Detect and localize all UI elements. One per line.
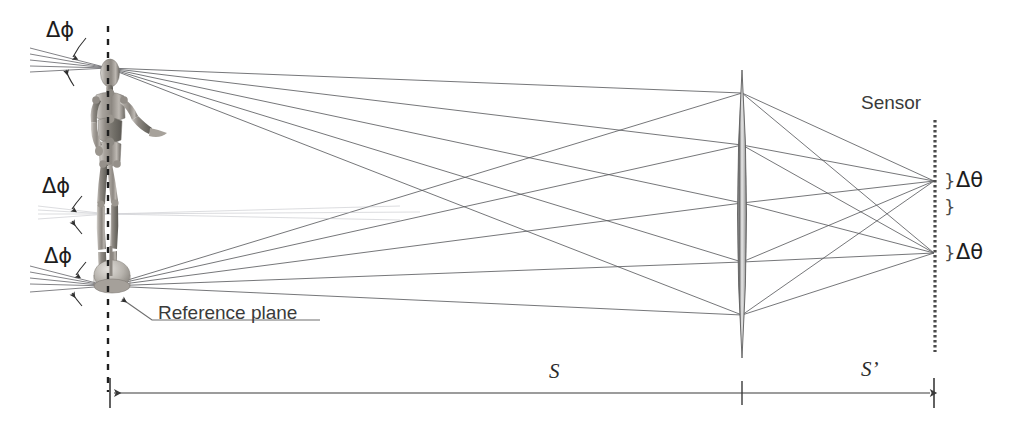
object-fan-top-left (30, 48, 108, 72)
delta-phi-top-label: Δϕ (46, 20, 74, 41)
delta-phi-bottom-arrows (72, 262, 86, 306)
delta-phi-middle-arrows (72, 196, 82, 234)
object-distance-label: S (549, 361, 560, 382)
dimension-line-group (110, 378, 934, 408)
delta-theta-top-label: Δθ (956, 170, 983, 191)
image-distance-label: S’ (861, 359, 879, 380)
delta-phi-middle-label: Δϕ (42, 176, 70, 197)
mannequin-figure (91, 59, 167, 293)
delta-phi-bottom-label: Δϕ (44, 246, 72, 267)
optical-diagram: Δϕ Δϕ Δϕ Δθ Δθ } } } Sensor Reference pl… (0, 0, 1014, 428)
delta-theta-top-brace: } (944, 170, 955, 191)
ray-bundle-bottom (108, 93, 934, 315)
sensor-label: Sensor (861, 93, 921, 112)
delta-theta-bottom-label: Δθ (956, 242, 983, 263)
delta-theta-bottom-brace: } (944, 242, 955, 263)
reference-plane-label: Reference plane (158, 303, 297, 322)
delta-theta-top-brace-lower: } (944, 196, 955, 217)
ray-bundle-top (108, 68, 934, 315)
